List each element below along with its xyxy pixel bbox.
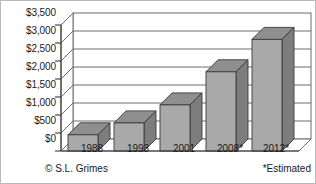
y-axis (55, 13, 73, 151)
bar-2012 (252, 27, 294, 151)
copyright-credit: © S.L. Grimes (45, 163, 108, 174)
estimated-footnote: *Estimated (263, 163, 311, 174)
bar-chart-figure: $3,500 $3,000 $2,500 $2,000 $1,500 $1,00… (0, 0, 316, 184)
x-axis-tick-labels: 1988 1993 2001 2008* 2012* (61, 143, 313, 159)
x-axis-tick-2012: 2012* (245, 143, 307, 155)
bar-2008 (206, 60, 248, 151)
